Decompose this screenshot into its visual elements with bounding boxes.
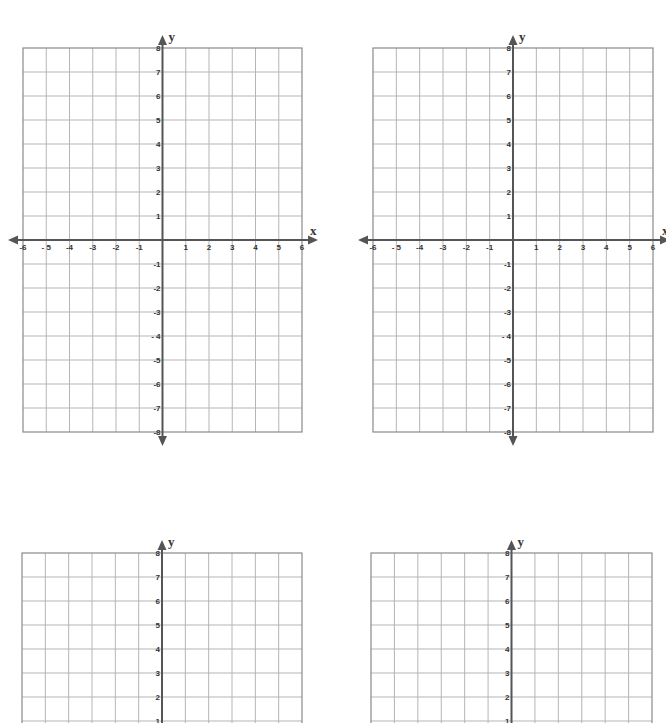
y-tick-label: 3 <box>505 669 510 678</box>
coordinate-plane-bottom-right: xy-6- 5-4-3-2-112345687654321-1-2-3- 4-5… <box>0 0 666 723</box>
y-tick-label: 2 <box>505 693 510 702</box>
worksheet-page: xy-6- 5-4-3-2-112345687654321-1-2-3- 4-5… <box>0 0 666 723</box>
y-tick-label: 1 <box>505 717 510 723</box>
y-axis-label: y <box>518 534 525 549</box>
y-tick-label: 4 <box>505 645 510 654</box>
y-tick-label: 6 <box>505 597 510 606</box>
y-tick-label: 8 <box>505 549 510 558</box>
y-tick-label: 7 <box>505 573 510 582</box>
y-tick-label: 5 <box>505 621 510 630</box>
